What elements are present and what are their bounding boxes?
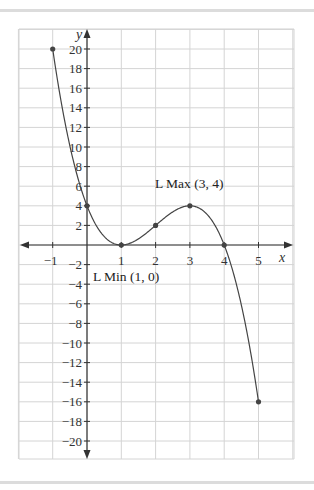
y-tick-label: −8 — [68, 316, 82, 331]
data-point — [153, 223, 158, 228]
data-point — [187, 203, 192, 208]
x-tick-label: 2 — [152, 253, 159, 268]
data-point — [50, 46, 55, 51]
y-tick-label: −6 — [68, 296, 82, 311]
x-tick-label: 3 — [187, 253, 194, 268]
data-point — [222, 242, 227, 247]
y-tick-label: −2 — [68, 257, 82, 272]
function-graph: 2018161412108642−2−4−6−8−10−12−14−16−18−… — [0, 0, 314, 490]
y-tick-label: −4 — [68, 277, 82, 292]
data-point — [256, 399, 261, 404]
local-min-label: L Min (1, 0) — [93, 269, 159, 284]
y-tick-label: 16 — [69, 81, 83, 96]
y-tick-label: 20 — [69, 42, 82, 57]
data-point — [119, 242, 124, 247]
local-max-label: L Max (3, 4) — [155, 176, 223, 191]
y-tick-label: 2 — [76, 218, 83, 233]
y-tick-label: 4 — [76, 198, 83, 213]
x-tick-label: 1 — [118, 253, 125, 268]
y-tick-label: −18 — [62, 414, 82, 429]
x-tick-label: 4 — [221, 253, 228, 268]
y-tick-label: 18 — [69, 61, 82, 76]
x-tick-label: 5 — [255, 253, 262, 268]
x-axis-label: x — [278, 250, 286, 265]
y-tick-label: −20 — [62, 434, 82, 449]
y-tick-label: −10 — [62, 336, 82, 351]
x-tick-label: −1 — [44, 253, 58, 268]
y-tick-label: 14 — [69, 100, 83, 115]
y-axis-label: y — [74, 27, 83, 42]
y-tick-label: −14 — [62, 375, 83, 390]
data-point — [84, 203, 89, 208]
y-tick-label: −16 — [62, 394, 83, 409]
y-tick-label: 12 — [69, 120, 82, 135]
y-tick-label: −12 — [62, 355, 82, 370]
